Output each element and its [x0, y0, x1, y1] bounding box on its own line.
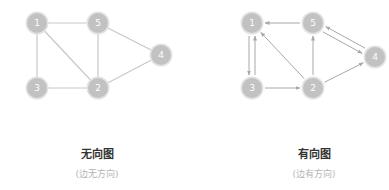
directed-node-4: 4 [364, 46, 387, 69]
edge-1-2 [37, 23, 98, 88]
directed-node-5: 5 [302, 12, 325, 35]
node-label: 5 [310, 18, 316, 28]
node-label: 1 [249, 18, 255, 28]
undirected-node-4: 4 [150, 44, 173, 67]
undirected-graph-title: 无向图 [37, 145, 157, 161]
undirected-graph-subtitle: (边无方向) [37, 167, 157, 180]
node-label: 2 [95, 83, 101, 93]
node-label: 2 [310, 83, 316, 93]
arrow-5-to-4 [323, 32, 362, 53]
arrow-2-to-1 [261, 32, 304, 78]
directed-node-3: 3 [241, 77, 264, 100]
directed-graph-title: 有向图 [254, 145, 374, 161]
node-label: 4 [158, 50, 164, 60]
directed-node-1: 1 [241, 12, 264, 35]
arrow-2-to-4 [325, 63, 364, 82]
undirected-graph-nodes: 15432 [26, 12, 173, 100]
undirected-node-3: 3 [26, 77, 49, 100]
node-label: 5 [95, 18, 101, 28]
undirected-graph-caption: 无向图 (边无方向) [37, 145, 157, 180]
directed-graph-caption: 有向图 (边有方向) [254, 145, 374, 180]
directed-node-2: 2 [302, 77, 325, 100]
directed-graph-subtitle: (边有方向) [254, 167, 374, 180]
node-label: 4 [372, 52, 378, 62]
node-label: 1 [34, 18, 40, 28]
node-label: 3 [249, 83, 255, 93]
node-label: 3 [34, 83, 40, 93]
arrow-4-to-5 [326, 27, 365, 48]
undirected-node-1: 1 [26, 12, 49, 35]
undirected-node-2: 2 [87, 77, 110, 100]
undirected-node-5: 5 [87, 12, 110, 35]
